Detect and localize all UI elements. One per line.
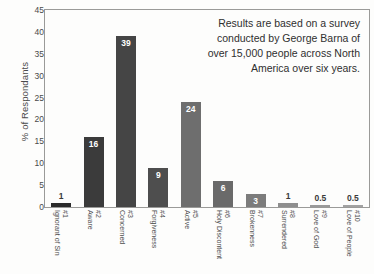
bar-value-label: 6	[213, 184, 233, 193]
bar: 6	[213, 181, 233, 207]
bar-value-label: 16	[84, 140, 104, 149]
y-tick-label: 0	[18, 203, 44, 212]
bar: 0.5	[343, 205, 363, 208]
x-label-number: #6	[224, 210, 231, 218]
bar-slot: 16	[77, 10, 109, 207]
x-label-number: #1	[62, 210, 69, 218]
x-label-number: #10	[353, 210, 360, 222]
bar: 1	[278, 203, 298, 207]
x-label-name: Active	[183, 210, 190, 229]
bar-value-label: 3	[246, 197, 266, 206]
bar-value-label: 1	[278, 192, 298, 201]
bar-chart: % of Respondants 051015202530354045 1163…	[0, 0, 374, 274]
x-label-number: #3	[127, 210, 134, 218]
x-label-name: Brokenness	[248, 210, 255, 247]
x-label-slot: #10Love of People	[337, 209, 369, 274]
bar-value-label: 1	[51, 192, 71, 201]
annotation-note: Results are based on a survey conducted …	[196, 16, 360, 76]
x-label-name: Concerned	[119, 210, 126, 244]
x-label-number: #4	[159, 210, 166, 218]
x-label-slot: #3Concerned	[110, 209, 142, 274]
bar-value-label: 24	[181, 105, 201, 114]
x-axis-tick-labels: #1Ignorant of Sin#2Aware#3Concerned#4For…	[45, 209, 369, 274]
x-label-slot: #5Active	[175, 209, 207, 274]
x-label-name: Surrendered	[281, 210, 288, 249]
y-axis-tick-labels: 051015202530354045	[18, 0, 44, 212]
x-label-name: Love of God	[313, 210, 320, 248]
x-label-number: #2	[94, 210, 101, 218]
x-label-slot: #6Holy Discontent	[207, 209, 239, 274]
x-label-name: Ignorant of Sin	[54, 210, 61, 256]
bar: 0.5	[310, 205, 330, 208]
bar: 24	[181, 102, 201, 207]
x-label-slot: #4Forgiveness	[142, 209, 174, 274]
x-label-slot: #2Aware	[77, 209, 109, 274]
x-label-name: Forgiveness	[151, 210, 158, 248]
x-label-number: #9	[321, 210, 328, 218]
bar: 9	[148, 168, 168, 207]
bar: 3	[246, 194, 266, 207]
bar-value-label: 0.5	[310, 194, 330, 203]
y-tick-label: 10	[18, 159, 44, 168]
x-label-name: Holy Discontent	[216, 210, 223, 259]
y-tick-label: 15	[18, 137, 44, 146]
bar-value-label: 39	[116, 39, 136, 48]
bar: 16	[84, 137, 104, 207]
bar-slot: 9	[142, 10, 174, 207]
y-tick-label: 5	[18, 181, 44, 190]
x-label-name: Aware	[86, 210, 93, 230]
y-tick-label: 35	[18, 50, 44, 59]
y-tick-label: 45	[18, 6, 44, 15]
x-label-number: #7	[256, 210, 263, 218]
bar-value-label: 9	[148, 171, 168, 180]
bar: 39	[116, 36, 136, 207]
bar: 1	[51, 203, 71, 207]
bar-slot: 39	[110, 10, 142, 207]
y-tick-label: 40	[18, 28, 44, 37]
bar-value-label: 0.5	[343, 194, 363, 203]
x-label-name: Love of People	[345, 210, 352, 257]
x-label-slot: #1Ignorant of Sin	[45, 209, 77, 274]
x-label-slot: #9Love of God	[304, 209, 336, 274]
x-label-slot: #7Brokenness	[239, 209, 271, 274]
y-tick-label: 20	[18, 115, 44, 124]
x-label-slot: #8Surrendered	[272, 209, 304, 274]
x-label-number: #5	[191, 210, 198, 218]
y-tick-label: 25	[18, 93, 44, 102]
bar-slot: 1	[45, 10, 77, 207]
x-label-number: #8	[289, 210, 296, 218]
y-tick-label: 30	[18, 71, 44, 80]
